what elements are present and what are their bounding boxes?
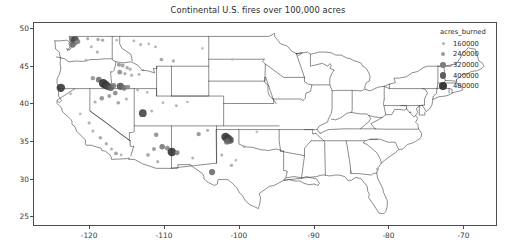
legend-entries: 160000240000320000400000480000 [436,39,498,92]
x-tick-mark [463,226,464,229]
x-tick-label: -70 [449,231,477,240]
legend-item-label: 160000 [453,40,479,48]
legend-marker-icon [436,62,450,67]
x-tick-label: -100 [225,231,253,240]
x-tick-mark [388,226,389,229]
legend-marker-icon [436,72,450,79]
legend-item: 320000 [436,60,498,71]
x-tick-mark [164,226,165,229]
figure-canvas: Continental U.S. fires over 100,000 acre… [0,0,516,252]
legend-item: 480000 [436,81,498,92]
legend-marker-icon [436,52,450,56]
legend-item: 240000 [436,49,498,60]
legend-item-label: 400000 [453,72,479,80]
legend: acres_burned 160000240000320000400000480… [436,28,498,91]
legend-item-label: 240000 [453,50,479,58]
legend-item-label: 320000 [453,61,479,69]
x-tick-label: -80 [374,231,402,240]
legend-item: 160000 [436,39,498,50]
x-tick-label: -120 [75,231,103,240]
legend-item: 400000 [436,70,498,81]
legend-marker-icon [436,82,450,90]
legend-marker-icon [436,42,450,45]
legend-title: acres_burned [440,28,498,36]
x-tick-mark [314,226,315,229]
x-tick-label: -110 [150,231,178,240]
x-tick-label: -90 [300,231,328,240]
x-tick-mark [89,226,90,229]
x-tick-mark [239,226,240,229]
legend-item-label: 480000 [453,82,479,90]
